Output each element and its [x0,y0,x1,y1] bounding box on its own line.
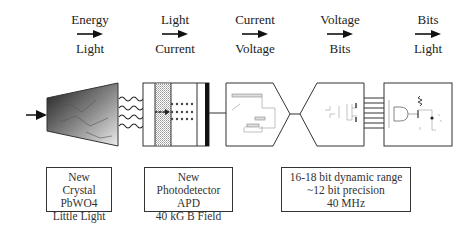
preamp-block-icon [226,83,290,146]
note-crystal: New Crystal PbWO4 Little Light [46,167,112,212]
note-line: New Crystal [51,171,107,197]
note-photodetector: New Photodetector APD 40 kG B Field [144,167,233,212]
note-line: 16-18 bit dynamic range [286,171,406,184]
note-line: 40 MHz [286,197,406,210]
note-line: 40 kG B Field [149,210,228,223]
crystal-icon [47,83,118,146]
note-line: APD [149,197,228,210]
note-line: PbWO4 [51,197,107,210]
optical-transmitter-block-icon [384,83,452,146]
photodetector-icon [143,83,209,146]
note-line: ~12 bit precision [286,184,406,197]
light-wave-icon [119,97,143,128]
note-digitizer: 16-18 bit dynamic range ~12 bit precisio… [281,167,411,212]
adc-block-icon [300,83,364,146]
data-bus-lines [364,98,384,128]
note-line: Little Light [51,210,107,223]
note-line: New Photodetector [149,171,228,197]
input-arrow-icon [26,110,47,120]
